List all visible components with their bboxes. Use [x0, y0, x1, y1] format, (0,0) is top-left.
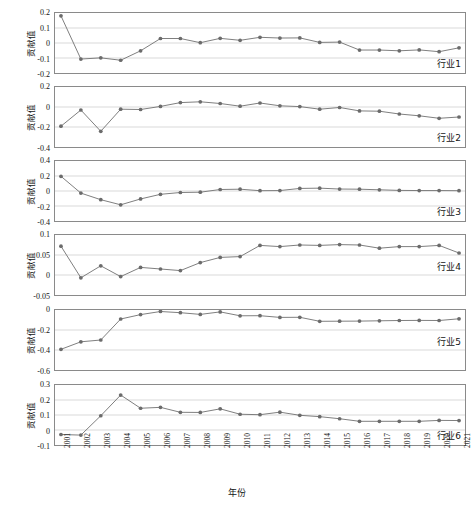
y-tick-label: 0.1: [40, 411, 52, 420]
series-plot: [55, 87, 465, 147]
x-tick-label: 2017: [383, 433, 392, 448]
y-tick-label: 0.2: [40, 82, 52, 91]
x-tick-label: 2001: [63, 433, 72, 448]
data-point: [99, 56, 103, 60]
data-point: [79, 191, 83, 195]
data-point: [358, 319, 362, 323]
data-point: [59, 14, 63, 18]
series-plot: [55, 13, 465, 73]
data-point: [437, 116, 441, 120]
data-point: [397, 189, 401, 193]
data-point: [159, 267, 163, 271]
data-point: [99, 198, 103, 202]
data-point: [198, 411, 202, 415]
data-point: [218, 310, 222, 314]
data-point: [437, 189, 441, 193]
series-plot: [55, 235, 465, 295]
data-point: [258, 35, 262, 39]
x-tick-label: 2006: [163, 433, 172, 448]
data-point: [119, 275, 123, 279]
x-tick-label: 2005: [143, 433, 152, 448]
plot-area: 行业1: [54, 12, 466, 74]
data-point: [99, 129, 103, 133]
y-tick-label: 0: [46, 305, 52, 314]
data-point: [198, 100, 202, 104]
data-point: [119, 317, 123, 321]
data-point: [318, 319, 322, 323]
data-point: [457, 115, 461, 119]
data-point: [258, 101, 262, 105]
data-point: [278, 245, 282, 249]
panel-行业1: 贡献值0.20.10-0.1-0.2行业1: [0, 12, 473, 74]
panel-行业4: 贡献值0.10.050-0.05行业4: [0, 234, 473, 296]
panel-inner: 贡献值0.40.20-0.2-0.4行业3: [0, 160, 473, 222]
data-point: [139, 406, 143, 410]
data-point: [159, 37, 163, 41]
data-point: [338, 106, 342, 110]
data-point: [258, 413, 262, 417]
x-tick-label: 2009: [223, 433, 232, 448]
data-point: [457, 189, 461, 193]
panel-行业3: 贡献值0.40.20-0.2-0.4行业3: [0, 160, 473, 222]
y-tick-label: 0: [46, 187, 52, 196]
plot-area: 行业3: [54, 160, 466, 222]
data-point: [417, 419, 421, 423]
data-point: [318, 107, 322, 111]
data-point: [397, 319, 401, 323]
data-point: [139, 49, 143, 53]
series-label: 行业1: [437, 57, 461, 70]
data-point: [99, 264, 103, 268]
y-tick-labels: 0-0.2-0.4-0.6: [24, 309, 52, 371]
y-tick-label: -0.2: [37, 202, 52, 211]
panel-行业5: 贡献值0-0.2-0.4-0.6行业5: [0, 309, 473, 371]
data-point: [119, 203, 123, 207]
data-point: [298, 187, 302, 191]
data-point: [159, 406, 163, 410]
x-tick-label: 2004: [123, 433, 132, 448]
data-point: [378, 109, 382, 113]
plot-area: 行业2: [54, 86, 466, 148]
data-point: [258, 244, 262, 248]
y-tick-label: -0.4: [37, 346, 52, 355]
x-tick-label: 2013: [303, 433, 312, 448]
x-tick-label: 2007: [183, 433, 192, 448]
data-point: [218, 188, 222, 192]
y-tick-label: 0.4: [40, 156, 52, 165]
data-point: [238, 38, 242, 42]
data-point: [238, 314, 242, 318]
data-point: [358, 419, 362, 423]
data-point: [338, 319, 342, 323]
y-tick-label: 0: [46, 102, 52, 111]
data-point: [218, 256, 222, 260]
data-point: [318, 186, 322, 190]
y-tick-label: -0.6: [37, 367, 52, 376]
data-point: [318, 415, 322, 419]
data-point: [178, 410, 182, 414]
data-point: [258, 189, 262, 193]
data-point: [457, 419, 461, 423]
x-tick-label: 2012: [283, 433, 292, 448]
panel-inner: 贡献值0.10.050-0.05行业4: [0, 234, 473, 296]
data-point: [79, 276, 83, 280]
x-tick-label: 2019: [423, 433, 432, 448]
x-tick-label: 2003: [103, 433, 112, 448]
data-point: [198, 261, 202, 265]
data-point: [417, 48, 421, 52]
x-tick-label: 2002: [83, 433, 92, 448]
series-label: 行业3: [437, 205, 461, 218]
data-point: [178, 191, 182, 195]
data-point: [298, 315, 302, 319]
data-point: [198, 190, 202, 194]
y-tick-label: 0.1: [40, 230, 52, 239]
data-point: [159, 105, 163, 109]
data-point: [139, 108, 143, 112]
data-point: [358, 48, 362, 52]
y-tick-label: -0.2: [37, 123, 52, 132]
data-point: [417, 319, 421, 323]
data-point: [79, 57, 83, 61]
data-point: [338, 187, 342, 191]
y-tick-labels: 0.20-0.2-0.4: [24, 86, 52, 148]
data-point: [437, 419, 441, 423]
y-tick-labels: 0.30.20.10-0.1: [24, 384, 52, 446]
data-point: [457, 251, 461, 255]
